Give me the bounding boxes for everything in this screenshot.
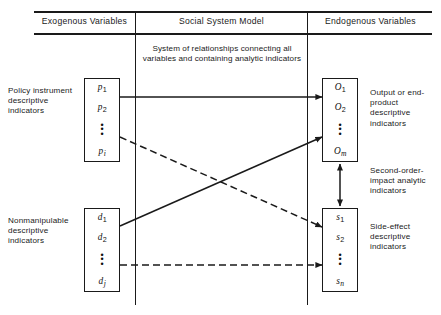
vertical-ellipsis-icon: ••• (338, 253, 341, 266)
variable-item: p2 (98, 103, 107, 112)
variable-item: s2 (336, 233, 344, 242)
variable-item: pi (99, 147, 106, 156)
variable-item: p1 (98, 83, 107, 92)
variable-box-nonmanipulable: d1 d2 ••• dj (84, 208, 120, 292)
vertical-ellipsis-icon: ••• (100, 123, 103, 136)
vertical-ellipsis-icon: ••• (338, 123, 341, 136)
arrow-layer (0, 0, 441, 315)
variable-item: sn (336, 277, 343, 286)
variable-box-output: O1 O2 ••• Om (322, 78, 358, 162)
variable-item: O2 (335, 103, 346, 112)
variable-item: d2 (98, 233, 107, 242)
variable-item: O1 (335, 83, 346, 92)
variable-item: Om (334, 147, 346, 156)
variable-item: s1 (336, 213, 344, 222)
vertical-ellipsis-icon: ••• (100, 253, 103, 266)
variable-box-policy: p1 p2 ••• pi (84, 78, 120, 162)
variable-item: dj (99, 277, 106, 286)
figure-canvas: Exogenous Variables Social System Model … (0, 0, 441, 315)
variable-box-side-effect: s1 s2 ••• sn (322, 208, 358, 292)
variable-item: d1 (98, 213, 107, 222)
